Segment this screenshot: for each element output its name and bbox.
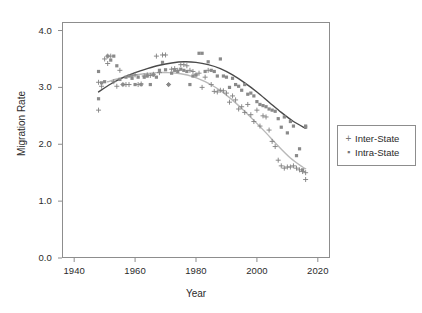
- legend-label-inter-state: Inter-State: [355, 132, 399, 145]
- x-tick-label-1980: 1980: [176, 265, 216, 276]
- legend-label-intra-state: Intra-State: [355, 146, 399, 159]
- data-points-inter-state: [96, 52, 308, 182]
- chart-root: 0.0 1.0 2.0 3.0 4.0 1940 1960 1980 2000 …: [0, 0, 422, 313]
- trend-curve-intra-state: [99, 62, 306, 129]
- x-tick-label-2000: 2000: [237, 265, 277, 276]
- x-axis-title: Year: [150, 288, 242, 299]
- y-tick-label-0: 0.0: [18, 252, 52, 263]
- trend-curve-inter-state: [108, 72, 306, 168]
- y-tick-marks: [58, 31, 62, 258]
- x-tick-label-2020: 2020: [298, 265, 338, 276]
- legend-item-inter-state[interactable]: + Inter-State: [342, 132, 410, 145]
- x-tick-label-1940: 1940: [54, 265, 94, 276]
- y-tick-label-4: 4.0: [18, 25, 52, 36]
- chart-legend: + Inter-State ▪ Intra-State: [337, 125, 416, 166]
- x-tick-label-1960: 1960: [115, 265, 155, 276]
- square-marker-icon: ▪: [342, 146, 355, 159]
- plus-marker-icon: +: [342, 132, 355, 145]
- x-tick-marks: [74, 258, 318, 262]
- legend-item-intra-state[interactable]: ▪ Intra-State: [342, 146, 410, 159]
- y-tick-label-1: 1.0: [18, 195, 52, 206]
- y-axis-title: Migration Rate: [16, 79, 27, 169]
- data-points-intra-state: [97, 52, 307, 172]
